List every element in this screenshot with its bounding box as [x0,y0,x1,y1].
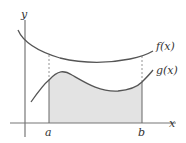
x-axis-label: x [169,117,176,130]
shaded-region [49,72,142,123]
b-label: b [138,126,145,139]
curve-f [18,30,153,62]
g-label: g(x) [156,64,178,77]
area-between-curves-diagram: y x f(x) g(x) a b [0,0,186,143]
a-label: a [45,126,52,139]
y-axis-label: y [20,8,28,21]
f-label: f(x) [155,40,175,53]
